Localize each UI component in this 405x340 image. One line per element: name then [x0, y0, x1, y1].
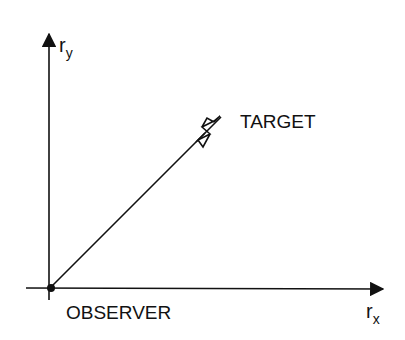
- x-axis: [26, 288, 383, 289]
- line-of-sight: [51, 133, 205, 287]
- observer-label: OBSERVER: [66, 302, 171, 323]
- line-of-sight-diagram: ry TARGET OBSERVER rx: [0, 0, 405, 340]
- x-axis-label: rx: [366, 300, 380, 327]
- observer-point: [47, 284, 55, 292]
- y-axis-label: ry: [59, 34, 73, 61]
- target-label: TARGET: [240, 111, 316, 132]
- target-icon: [196, 116, 221, 147]
